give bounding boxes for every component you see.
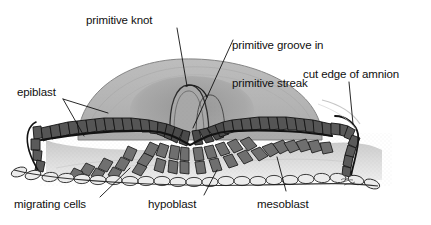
label-migrating-cells: migrating cells <box>14 198 86 211</box>
label-mesoblast: mesoblast <box>257 198 309 211</box>
label-primitive-knot: primitive knot <box>86 14 152 27</box>
embryology-figure: primitive knot primitive groove in primi… <box>0 0 431 225</box>
label-primitive-groove: primitive groove in primitive streak <box>232 14 323 114</box>
embryo-cross-section-illustration <box>0 0 431 225</box>
label-epiblast: epiblast <box>17 86 56 99</box>
label-primitive-groove-line1: primitive groove in <box>232 39 323 52</box>
amnion-torn-wisp <box>322 100 360 124</box>
label-hypoblast: hypoblast <box>148 198 196 211</box>
label-cut-edge-of-amnion: cut edge of amnion <box>303 68 399 81</box>
leader-cut-edge-of-amnion <box>349 82 353 124</box>
